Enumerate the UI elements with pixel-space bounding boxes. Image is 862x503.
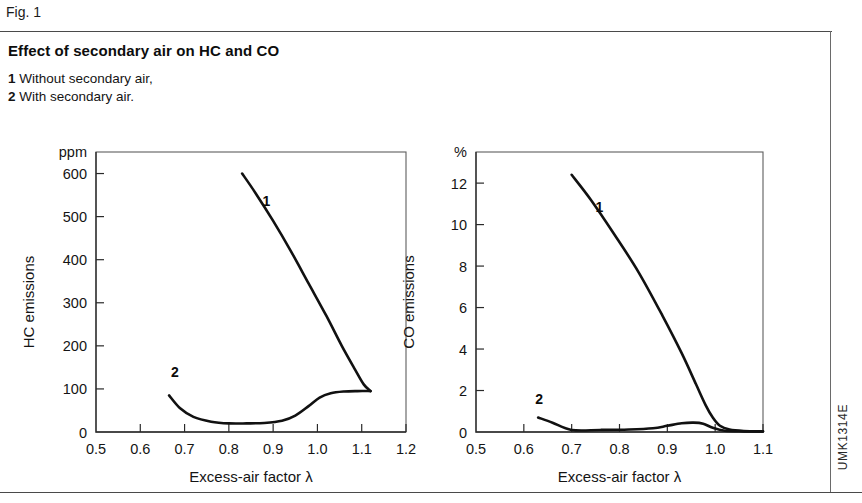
hc-chart-group: 0100200300400500600ppmHC emissions0.50.6… xyxy=(20,144,416,485)
co-chart-ytick-label: 6 xyxy=(459,300,467,316)
source-reference-code: UMK1314E xyxy=(836,404,850,470)
figure-page: Fig. 1 Effect of secondary air on HC and… xyxy=(0,0,862,503)
hc-chart-xtick-label: 0.7 xyxy=(174,441,194,457)
emissions-charts-svg: 0100200300400500600ppmHC emissions0.50.6… xyxy=(0,130,830,480)
hc-chart-ytick-label: 0 xyxy=(79,425,87,441)
co-chart-y-unit: % xyxy=(454,144,467,160)
hc-chart-xtick-label: 0.5 xyxy=(86,441,106,457)
hc-chart-ytick-label: 400 xyxy=(63,252,87,268)
hc-chart-xtick-label: 1.0 xyxy=(307,441,327,457)
hc-chart-xtick-label: 1.2 xyxy=(396,441,416,457)
hc-chart-ytick-label: 200 xyxy=(63,338,87,354)
co-chart-ytick-label: 0 xyxy=(459,425,467,441)
co-chart-xtick-label: 0.7 xyxy=(562,441,582,457)
hc-chart-ytick-label: 600 xyxy=(63,166,87,182)
hc-chart-xtick-label: 0.6 xyxy=(130,441,150,457)
hc-chart-ytick-label: 500 xyxy=(63,209,87,225)
hc-chart-xtick-label: 0.8 xyxy=(219,441,239,457)
co-chart-plot-frame xyxy=(476,152,763,432)
page-right-border xyxy=(830,31,831,492)
legend-item-2: 2 With secondary air. xyxy=(8,88,153,106)
hc-chart-xtick-label: 1.1 xyxy=(352,441,372,457)
co-chart-axes xyxy=(476,152,763,432)
charts-container: 0100200300400500600ppmHC emissions0.50.6… xyxy=(0,130,830,480)
hc-chart-curve-1 xyxy=(242,174,370,392)
header-divider xyxy=(0,31,832,32)
legend-text-1: Without secondary air, xyxy=(19,71,153,86)
co-chart-ytick-label: 2 xyxy=(459,383,467,399)
hc-chart-xtick-label: 0.9 xyxy=(263,441,283,457)
legend-key-2: 2 xyxy=(8,89,16,104)
co-chart-xtick-label: 0.9 xyxy=(657,441,677,457)
figure-legend: 1 Without secondary air, 2 With secondar… xyxy=(8,70,153,106)
legend-item-1: 1 Without secondary air, xyxy=(8,70,153,88)
co-chart-group: 024681012%CO emissions0.50.60.70.80.91.0… xyxy=(400,144,773,485)
figure-title: Effect of secondary air on HC and CO xyxy=(8,42,279,59)
co-chart-y-axis-title: CO emissions xyxy=(400,255,417,348)
hc-chart-curve-2 xyxy=(169,391,371,423)
co-chart-ytick-label: 12 xyxy=(451,176,467,192)
co-chart-xtick-label: 0.8 xyxy=(609,441,629,457)
co-chart-ytick-label: 8 xyxy=(459,259,467,275)
hc-chart-y-axis-title: HC emissions xyxy=(20,256,37,349)
figure-number: Fig. 1 xyxy=(6,4,41,20)
co-chart-xtick-label: 0.5 xyxy=(466,441,486,457)
hc-chart-ytick-label: 300 xyxy=(63,295,87,311)
hc-chart-y-unit: ppm xyxy=(59,144,87,160)
footer-divider xyxy=(0,492,862,493)
hc-chart-x-axis-title: Excess-air factor λ xyxy=(189,468,313,485)
co-chart-x-axis-title: Excess-air factor λ xyxy=(558,468,682,485)
co-chart-curve-label-2: 2 xyxy=(535,391,543,407)
co-chart-ytick-label: 10 xyxy=(451,217,467,233)
legend-text-2: With secondary air. xyxy=(19,89,134,104)
legend-key-1: 1 xyxy=(8,71,16,86)
co-chart-curve-label-1: 1 xyxy=(596,199,604,215)
co-chart-ytick-label: 4 xyxy=(459,342,467,358)
hc-chart-curve-label-1: 1 xyxy=(263,193,271,209)
hc-chart-ytick-label: 100 xyxy=(63,381,87,397)
co-chart-xtick-label: 0.6 xyxy=(514,441,534,457)
co-chart-xtick-label: 1.1 xyxy=(753,441,773,457)
co-chart-xtick-label: 1.0 xyxy=(705,441,725,457)
hc-chart-curve-label-2: 2 xyxy=(171,364,179,380)
